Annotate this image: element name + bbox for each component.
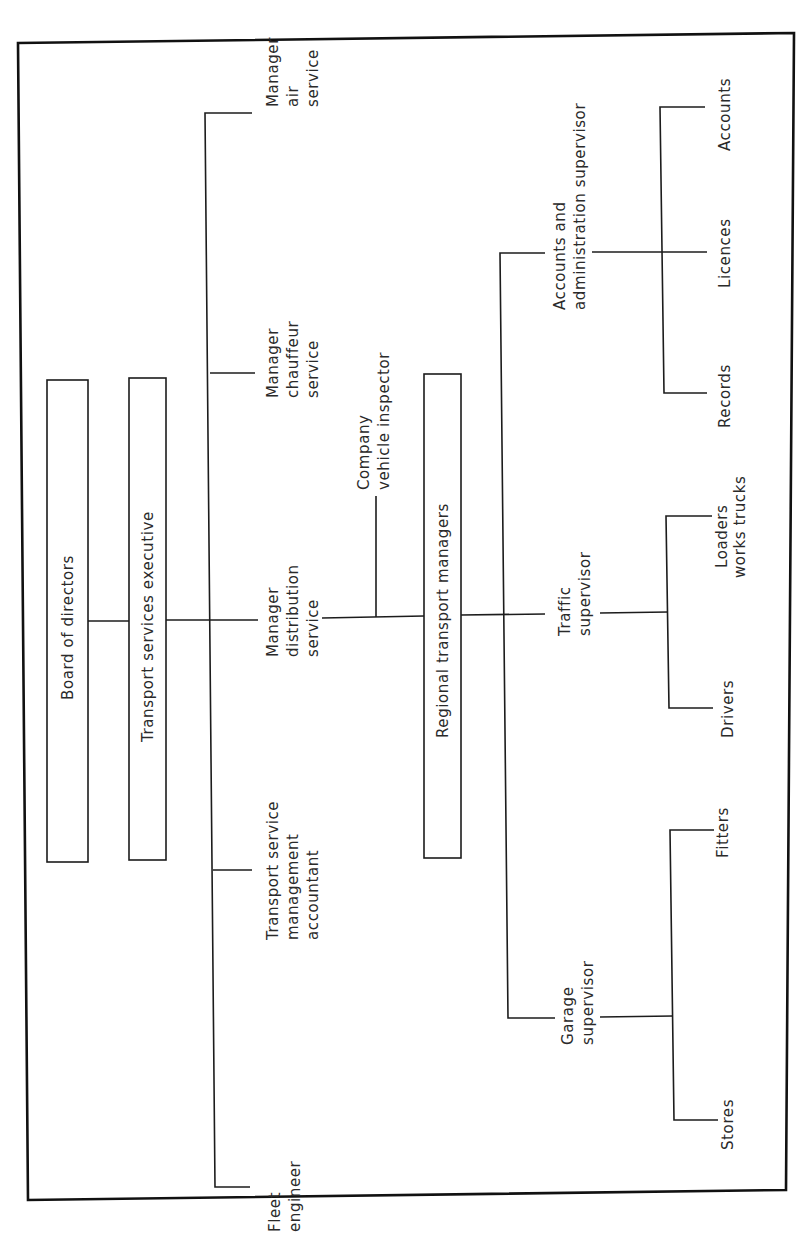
garage-children <box>670 830 718 1120</box>
air-node: Manager air service <box>264 37 322 107</box>
traffic-children <box>666 516 713 708</box>
distribution-node: Manager distribution service <box>264 564 322 657</box>
svg-text:supervisor: supervisor <box>576 551 594 636</box>
svg-text:distribution: distribution <box>284 564 302 657</box>
board-label: Board of directors <box>59 555 77 700</box>
svg-text:service: service <box>304 49 322 107</box>
svg-text:Transport service: Transport service <box>264 801 282 941</box>
svg-text:accountant: accountant <box>304 850 322 940</box>
records-node: Records <box>716 364 734 428</box>
svg-text:service: service <box>304 340 322 398</box>
loaders-node: Loaders works trucks <box>713 476 749 578</box>
svg-text:Loaders: Loaders <box>713 505 731 568</box>
executive-spine <box>205 113 252 1187</box>
svg-text:Company: Company <box>355 414 373 490</box>
svg-text:supervisor: supervisor <box>579 960 597 1045</box>
accounts-admin-children <box>660 107 707 393</box>
svg-text:vehicle inspector: vehicle inspector <box>375 352 393 490</box>
connector <box>600 612 668 613</box>
connector <box>600 1016 673 1017</box>
svg-text:Manager: Manager <box>264 37 282 107</box>
svg-text:service: service <box>304 599 322 657</box>
svg-text:management: management <box>284 834 302 940</box>
svg-text:Manager: Manager <box>264 587 282 657</box>
svg-text:Fleet: Fleet <box>266 1192 284 1232</box>
licences-node: Licences <box>716 218 734 288</box>
regional-label: Regional transport managers <box>434 503 452 738</box>
garage-node: Garage supervisor <box>559 960 597 1045</box>
accounts-admin-node: Accounts and administration supervisor <box>551 103 589 310</box>
svg-text:Traffic: Traffic <box>556 587 574 638</box>
svg-text:engineer: engineer <box>286 1160 304 1232</box>
inspector-node: Company vehicle inspector <box>355 352 393 490</box>
drivers-node: Drivers <box>719 680 737 738</box>
traffic-node: Traffic supervisor <box>556 551 594 637</box>
fitters-node: Fitters <box>714 807 732 858</box>
svg-text:Accounts and: Accounts and <box>551 201 569 310</box>
stores-node: Stores <box>719 1099 737 1150</box>
svg-text:administration supervisor: administration supervisor <box>571 103 589 310</box>
svg-text:works trucks: works trucks <box>731 476 749 578</box>
accounts-node: Accounts <box>716 78 734 151</box>
connector <box>322 616 424 618</box>
executive-label: Transport services executive <box>139 511 157 743</box>
accountant-node: Transport service management accountant <box>264 801 322 941</box>
svg-text:Manager: Manager <box>264 328 282 398</box>
svg-text:air: air <box>284 85 302 107</box>
supervisor-spine <box>500 253 555 1018</box>
svg-text:chauffeur: chauffeur <box>284 320 302 398</box>
chauffeur-node: Manager chauffeur service <box>264 320 322 398</box>
svg-text:Garage: Garage <box>559 986 577 1045</box>
org-chart: Board of directors Transport services ex… <box>0 0 810 1239</box>
